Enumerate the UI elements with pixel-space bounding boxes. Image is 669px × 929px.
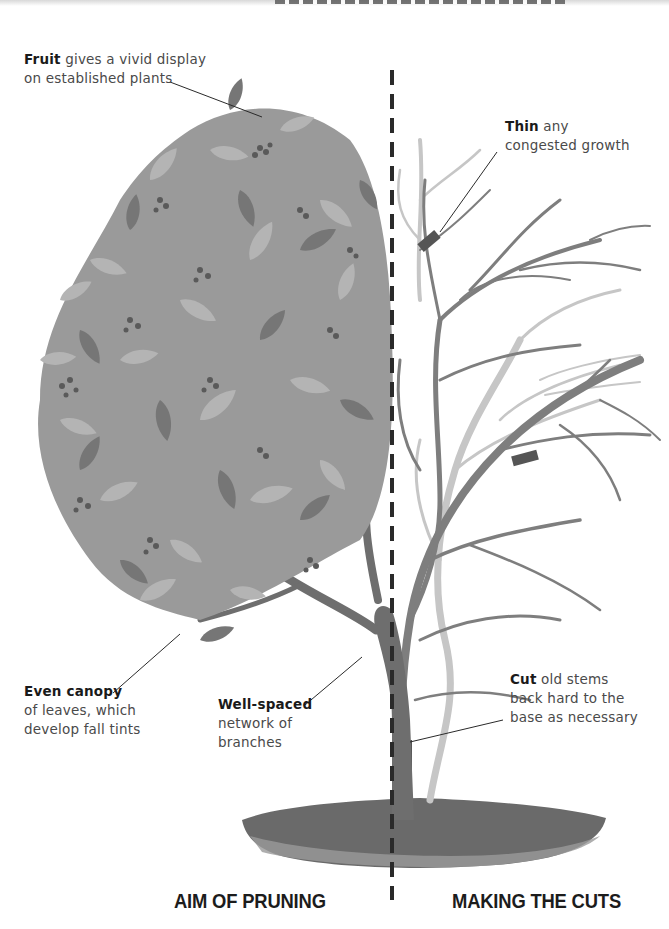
callout-even-canopy-bold: Even canopy	[24, 683, 122, 699]
soil-mound	[242, 798, 606, 868]
callout-thin-bold: Thin	[505, 118, 539, 134]
callout-fruit-bold: Fruit	[24, 51, 61, 67]
heading-making-the-cuts: MAKING THE CUTS	[452, 890, 621, 913]
callout-cut-line1: old stems	[537, 671, 609, 687]
callout-well-spaced: Well-spaced network of branches	[218, 695, 312, 752]
callout-cut-line3: base as necessary	[510, 708, 638, 727]
callout-cut: Cut old stems back hard to the base as n…	[510, 670, 638, 727]
callout-fruit-line2: on established plants	[24, 69, 206, 88]
canopy-left	[38, 76, 393, 646]
well-spaced-leader	[305, 657, 362, 705]
callout-well-spaced-line2: network of	[218, 714, 312, 733]
callout-well-spaced-line3: branches	[218, 733, 312, 752]
cut-marker-branch	[511, 450, 539, 466]
callout-well-spaced-bold: Well-spaced	[218, 696, 312, 712]
callout-thin-line2: congested growth	[505, 136, 630, 155]
callout-even-canopy-line2: of leaves, which	[24, 701, 140, 720]
callout-thin: Thin any congested growth	[505, 117, 630, 155]
callout-thin-line1: any	[539, 118, 569, 134]
callout-even-canopy-line3: develop fall tints	[24, 720, 140, 739]
cut-leader	[410, 720, 503, 742]
callout-fruit-line1: gives a vivid display	[61, 51, 206, 67]
callout-fruit: Fruit gives a vivid display on establish…	[24, 50, 206, 88]
callout-cut-line2: back hard to the	[510, 689, 638, 708]
callout-cut-bold: Cut	[510, 671, 537, 687]
heading-aim-of-pruning: AIM OF PRUNING	[174, 890, 326, 913]
callout-even-canopy: Even canopy of leaves, which develop fal…	[24, 682, 140, 739]
